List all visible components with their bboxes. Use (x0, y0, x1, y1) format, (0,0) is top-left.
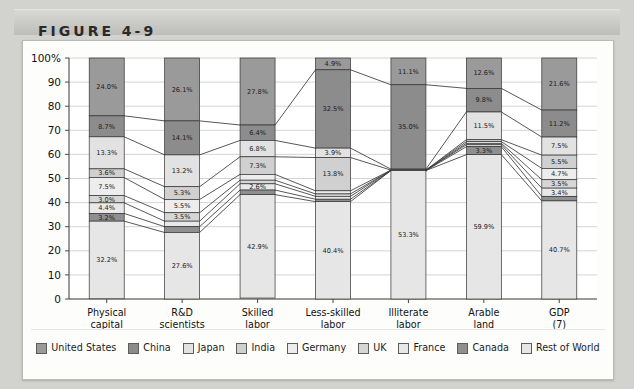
legend-item-label: Germany (302, 343, 346, 353)
legend-swatch-icon (457, 343, 468, 354)
x-axis-category-label: (5) (402, 330, 416, 331)
y-axis-tick-label: 80 (48, 100, 61, 112)
legend-swatch-icon (128, 343, 139, 354)
bar-segment[interactable] (316, 191, 351, 194)
bar-column[interactable]: 4.9%32.5%3.9%13.8%40.4% (316, 58, 351, 299)
x-axis-category-label: (4) (326, 330, 340, 331)
x-axis-category-label: (1) (100, 330, 114, 331)
bar-column[interactable]: 27.8%6.4%6.8%7.3%2.6%42.9% (240, 58, 275, 298)
bar-segment-label: 42.9% (247, 243, 268, 251)
legend-item-label: Japan (198, 343, 225, 353)
bar-segment-label: 3.5% (174, 213, 191, 221)
bar-segment-label: 32.2% (96, 256, 117, 264)
bar-segment-label: 53.3% (398, 231, 419, 239)
bar-segment-label: 3.4% (551, 189, 568, 197)
legend-item-label: UK (373, 343, 386, 353)
bar-column[interactable]: 12.6%9.8%11.5%3.3%59.9% (466, 58, 501, 299)
bar-segment-label: 11.1% (398, 68, 419, 76)
bar-segment[interactable] (316, 194, 351, 196)
legend-item-label: United States (51, 343, 116, 353)
bar-segment-label: 13.3% (96, 149, 117, 157)
bar-segment-label: 32.5% (323, 105, 344, 113)
x-axis-category-label: Arable (468, 307, 499, 318)
x-axis-category-label: labor (396, 319, 421, 330)
bar-segment-label: 11.5% (473, 122, 494, 130)
bar-segment-label: 8.7% (98, 123, 115, 131)
x-axis-category-label: (2) (175, 330, 189, 331)
bar-segment-label: 5.5% (551, 158, 568, 166)
legend-item[interactable]: China (128, 343, 170, 354)
legend-item-label: China (143, 343, 170, 353)
bar-segment-label: 7.3% (249, 162, 266, 170)
x-axis-category-label: land (473, 319, 494, 330)
bar-segment[interactable] (542, 196, 577, 201)
bar-segment-label: 11.2% (549, 120, 570, 128)
bar-segment-label: 59.9% (473, 223, 494, 231)
legend-item-label: Rest of World (536, 343, 600, 353)
bar-segment[interactable] (316, 199, 351, 201)
bar-segment-label: 12.6% (473, 69, 494, 77)
y-axis-tick-label: 70 (48, 124, 61, 136)
x-axis-category-label: labor (321, 319, 346, 330)
legend-swatch-icon (236, 343, 247, 354)
legend-item-label: Canada (472, 343, 509, 353)
bar-segment-label: 4.4% (98, 204, 115, 212)
bar-segment-label: 24.0% (96, 83, 117, 91)
bar-segment[interactable] (240, 190, 275, 195)
bar-segment-label: 40.4% (323, 247, 344, 255)
bar-segment-label: 5.5% (174, 202, 191, 210)
bar-segment-label: 27.6% (172, 262, 193, 270)
bar-segment-label: 26.1% (172, 86, 193, 94)
legend-item[interactable]: Germany (287, 343, 346, 354)
legend-item[interactable]: UK (358, 343, 386, 354)
bar-segment[interactable] (316, 196, 351, 199)
stacked-bar-chart: 100%908070605040302010024.0%8.7%13.3%3.6… (23, 41, 613, 331)
y-axis-tick-label: 50 (48, 172, 61, 184)
x-axis-category-label: (7) (552, 319, 566, 330)
bar-segment[interactable] (240, 174, 275, 180)
bar-segment-label: 3.5% (551, 180, 568, 188)
bar-segment-label: 13.2% (172, 167, 193, 175)
legend-item[interactable]: Canada (457, 343, 509, 354)
y-axis-tick-label: 90 (48, 76, 61, 88)
bar-column[interactable]: 24.0%8.7%13.3%3.6%7.5%3.0%4.4%3.2%32.2% (89, 58, 124, 299)
bar-column[interactable]: 26.1%14.1%13.2%5.3%5.5%3.5%27.6% (165, 58, 200, 299)
legend-item[interactable]: France (398, 343, 445, 354)
y-axis-tick-label: 30 (48, 220, 61, 232)
legend-swatch-icon (358, 343, 369, 354)
legend-item-label: India (251, 343, 275, 353)
legend-swatch-icon (398, 343, 409, 354)
bar-segment-label: 3.0% (98, 196, 115, 204)
x-axis-category-label: Physical (87, 307, 126, 318)
bar-segment-label: 7.5% (98, 183, 115, 191)
x-axis-category-label: scientists (160, 319, 205, 330)
plot-area: 100%908070605040302010024.0%8.7%13.3%3.6… (23, 41, 613, 331)
bar-segment-label: 27.8% (247, 88, 268, 96)
y-axis-tick-label: 60 (48, 148, 61, 160)
legend-item[interactable]: India (236, 343, 275, 354)
bar-column[interactable]: 21.6%11.2%7.5%5.5%4.7%3.5%3.4%40.7% (542, 58, 577, 299)
x-axis-category-label: Skilled (242, 307, 274, 318)
legend-item[interactable]: Rest of World (521, 343, 600, 354)
x-axis-category-label: R&D (171, 307, 193, 318)
bar-segment-label: 9.8% (475, 96, 492, 104)
x-axis-category-label: (3) (251, 330, 265, 331)
x-axis-category-label: Less-skilled (305, 307, 360, 318)
bar-segment-label: 35.0% (398, 123, 419, 131)
legend-item[interactable]: United States (36, 343, 116, 354)
bar-segment[interactable] (165, 221, 200, 227)
legend-swatch-icon (287, 343, 298, 354)
legend-item[interactable]: Japan (183, 343, 225, 354)
bar-segment-label: 4.9% (325, 60, 342, 68)
bar-segment-label: 13.8% (323, 170, 344, 178)
bar-segment[interactable] (165, 227, 200, 233)
bar-segment-label: 6.8% (249, 145, 266, 153)
legend-divider (31, 329, 605, 330)
y-axis-tick-label: 10 (48, 269, 61, 281)
x-axis-category-label: Illiterate (388, 307, 428, 318)
bar-segment-label: 5.3% (174, 189, 191, 197)
bar-column[interactable]: 11.1%35.0%53.3% (391, 58, 426, 299)
x-axis-category-label: labor (245, 319, 270, 330)
figure-header-band: FIGURE 4-9 (14, 9, 620, 35)
y-axis-tick-label: 0 (54, 293, 61, 305)
